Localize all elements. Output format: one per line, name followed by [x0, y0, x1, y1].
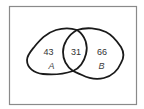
intersection-count: 31 — [71, 47, 81, 57]
set-a-only-count: 43 — [43, 47, 53, 57]
set-b-label: B — [98, 61, 104, 71]
set-b-only-count: 66 — [97, 47, 107, 57]
set-a-label: A — [47, 61, 54, 71]
venn-diagram: 43 31 66 A B — [0, 0, 144, 109]
